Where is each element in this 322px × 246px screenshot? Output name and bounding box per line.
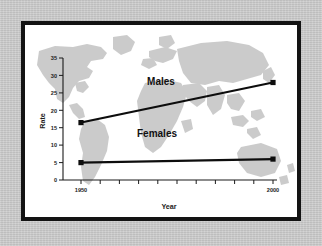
y-axis-title: Rate [38, 113, 47, 129]
y-tick-label-30: 30 [51, 73, 57, 79]
series-label-males: Males [147, 76, 175, 87]
y-tick-label-25: 25 [51, 90, 57, 96]
chart-plot: 35 30 25 20 15 10 5 0 [25, 25, 297, 217]
x-axis-title: Year [161, 202, 176, 211]
series-females-marker-2000 [270, 157, 275, 162]
y-tick-label-20: 20 [51, 108, 57, 114]
x-axis-ticks [81, 180, 273, 184]
chart-frame: 35 30 25 20 15 10 5 0 [21, 21, 301, 221]
x-tick-label-2000: 2000 [267, 187, 279, 193]
y-axis-ticks [59, 58, 63, 180]
series-females-marker-1950 [78, 160, 83, 165]
y-tick-label-35: 35 [51, 55, 57, 61]
series-males-line [81, 83, 273, 123]
y-tick-label-15: 15 [51, 125, 57, 131]
series-males-marker-1950 [78, 120, 83, 125]
y-tick-label-10: 10 [51, 142, 57, 148]
series-label-females: Females [137, 128, 177, 139]
y-tick-label-0: 0 [54, 177, 57, 183]
x-tick-label-1950: 1950 [75, 187, 87, 193]
series-males [78, 80, 275, 125]
figure-root: 35 30 25 20 15 10 5 0 [0, 0, 322, 246]
y-tick-label-5: 5 [54, 160, 57, 166]
series-females-line [81, 159, 273, 163]
series-females [78, 157, 275, 166]
series-males-marker-2000 [270, 80, 275, 85]
plot-canvas: 35 30 25 20 15 10 5 0 [25, 25, 297, 217]
